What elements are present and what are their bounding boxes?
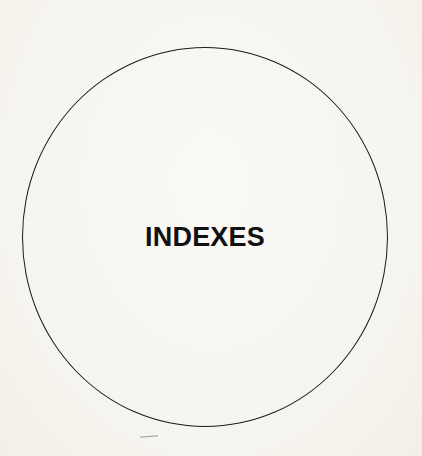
- section-heading: INDEXES: [0, 222, 410, 252]
- stray-mark: [140, 435, 158, 437]
- document-page: INDEXES: [0, 0, 422, 456]
